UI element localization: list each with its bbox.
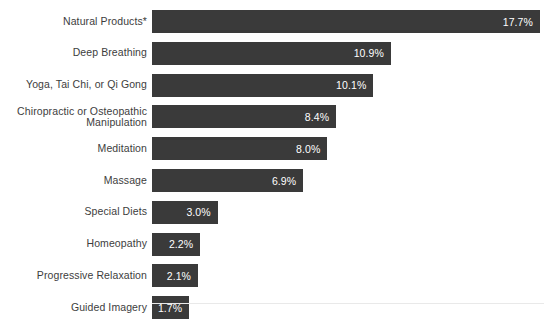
bar-value-label: 2.2% [169,238,193,250]
bar-track: 2.2% [152,233,200,256]
bar-value-label: 10.9% [354,47,384,59]
bar-value-label: 17.7% [503,16,533,28]
bar-fill: 10.9% [152,42,391,65]
bar-fill: 6.9% [152,169,303,192]
bar-track: 3.0% [152,201,218,224]
bar-category-label: Special Diets [0,207,147,219]
bar-row: Natural Products*17.7% [0,10,552,33]
bar-category-label: Progressive Relaxation [0,270,147,282]
bar-category-label: Deep Breathing [0,48,147,60]
bar-category-label: Guided Imagery [0,302,147,314]
bar-row: Chiropractic or Osteopathic Manipulation… [0,105,552,128]
bar-value-label: 2.1% [167,270,191,282]
bar-row: Meditation8.0% [0,137,552,160]
bar-value-label: 6.9% [272,175,296,187]
bar-fill: 8.0% [152,137,327,160]
bar-category-label: Meditation [0,143,147,155]
bar-track: 8.0% [152,137,327,160]
bar-track: 10.9% [152,42,391,65]
bar-value-label: 10.1% [336,79,366,91]
bar-row: Homeopathy2.2% [0,233,552,256]
bar-category-label: Natural Products* [0,16,147,28]
bar-track: 2.1% [152,264,198,287]
baseline-axis-line [152,303,544,304]
bar-category-label: Chiropractic or Osteopathic Manipulation [0,105,147,128]
bar-fill: 2.2% [152,233,200,256]
bar-value-label: 8.4% [305,111,329,123]
bar-fill: 3.0% [152,201,218,224]
bar-fill: 2.1% [152,264,198,287]
bar-track: 8.4% [152,105,336,128]
bar-row: Yoga, Tai Chi, or Qi Gong10.1% [0,74,552,97]
bar-row: Special Diets3.0% [0,201,552,224]
bar-fill: 10.1% [152,74,373,97]
bar-row: Massage6.9% [0,169,552,192]
bar-category-label: Yoga, Tai Chi, or Qi Gong [0,79,147,91]
bar-category-label: Massage [0,175,147,187]
bar-row: Guided Imagery1.7% [0,296,552,319]
bar-value-label: 3.0% [186,206,210,218]
bar-row: Progressive Relaxation2.1% [0,264,552,287]
bar-track: 6.9% [152,169,303,192]
bar-value-label: 8.0% [296,143,320,155]
bar-track: 1.7% [152,296,189,319]
bar-fill: 17.7% [152,10,540,33]
bar-track: 10.1% [152,74,373,97]
bar-row: Deep Breathing10.9% [0,42,552,65]
bar-fill: 1.7% [152,296,189,319]
bar-category-label: Homeopathy [0,238,147,250]
bar-track: 17.7% [152,10,540,33]
bar-fill: 8.4% [152,105,336,128]
